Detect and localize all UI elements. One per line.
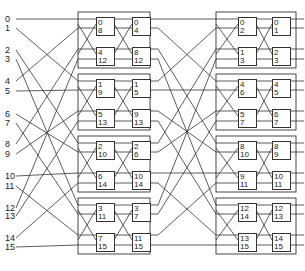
stage2-switch-box: 01	[272, 17, 291, 36]
stage2-switch-box: 1011	[272, 171, 291, 190]
switch-label: 8	[98, 27, 102, 35]
stage1-switch-box: 412	[96, 47, 115, 66]
stage1-switch-box: 311	[96, 203, 115, 222]
wiring-lines	[0, 0, 305, 271]
stage1-switch-box: 19	[96, 79, 115, 98]
switch-label: 14	[240, 213, 249, 221]
input-label: 7	[5, 119, 10, 128]
switch-label: 6	[240, 89, 244, 97]
switch-label: 13	[134, 119, 143, 127]
stage1-switch-box: 26	[132, 141, 151, 160]
switch-label: 3	[274, 57, 278, 65]
switch-label: 10	[98, 151, 107, 159]
switch-label: 13	[274, 213, 283, 221]
input-label: 15	[5, 243, 15, 252]
stage2-switch-box: 57	[238, 109, 257, 128]
switch-label: 15	[240, 243, 249, 251]
switch-label: 2	[240, 27, 244, 35]
switch-label: 9	[98, 89, 102, 97]
stage1-switch-box: 1014	[132, 171, 151, 190]
stage1-switch-box: 913	[132, 109, 151, 128]
stage1-switch-box: 210	[96, 141, 115, 160]
switch-label: 12	[98, 57, 107, 65]
switch-label: 4	[134, 27, 138, 35]
stage1-switch-box: 1115	[132, 233, 151, 252]
stage1-switch-box: 513	[96, 109, 115, 128]
input-label: 13	[5, 212, 15, 221]
input-label: 9	[5, 150, 10, 159]
switch-label: 11	[98, 213, 106, 221]
input-label: 11	[5, 182, 14, 191]
stage2-switch-box: 67	[272, 109, 291, 128]
switch-label: 1	[274, 27, 278, 35]
input-label: 8	[5, 140, 10, 149]
switch-label: 7	[134, 213, 138, 221]
switch-label: 13	[98, 119, 107, 127]
switch-label: 10	[240, 151, 249, 159]
stage1-switch-box: 715	[96, 233, 115, 252]
switch-label: 11	[240, 181, 248, 189]
switch-label: 7	[274, 119, 278, 127]
stage1-switch-box: 15	[132, 79, 151, 98]
switch-label: 14	[134, 181, 143, 189]
stage2-switch-box: 1415	[272, 233, 291, 252]
switch-label: 15	[134, 243, 143, 251]
stage1-switch-box: 08	[96, 17, 115, 36]
switch-label: 15	[98, 243, 107, 251]
switch-label: 5	[134, 89, 138, 97]
stage2-switch-box: 45	[272, 79, 291, 98]
stage2-switch-box: 02	[238, 17, 257, 36]
switch-label: 15	[274, 243, 283, 251]
switch-label: 6	[134, 151, 138, 159]
stage2-switch-box: 911	[238, 171, 257, 190]
stage1-switch-box: 04	[132, 17, 151, 36]
stage2-switch-box: 1214	[238, 203, 257, 222]
stage2-switch-box: 23	[272, 47, 291, 66]
switch-label: 7	[240, 119, 244, 127]
stage2-switch-box: 89	[272, 141, 291, 160]
stage2-switch-box: 13	[238, 47, 257, 66]
input-label: 1	[5, 24, 10, 33]
stage2-switch-box: 1315	[238, 233, 257, 252]
switch-label: 3	[240, 57, 244, 65]
switch-label: 5	[274, 89, 278, 97]
stage1-switch-box: 812	[132, 47, 151, 66]
switch-label: 14	[98, 181, 107, 189]
input-label: 3	[5, 55, 10, 64]
switch-label: 12	[134, 57, 143, 65]
stage1-switch-box: 37	[132, 203, 151, 222]
stage1-switch-box: 614	[96, 171, 115, 190]
stage2-switch-box: 810	[238, 141, 257, 160]
switch-label: 11	[274, 181, 282, 189]
input-label: 4	[5, 77, 10, 86]
input-label: 10	[5, 172, 15, 181]
stage2-switch-box: 1213	[272, 203, 291, 222]
input-label: 5	[5, 87, 10, 96]
switch-label: 9	[274, 151, 278, 159]
stage2-switch-box: 46	[238, 79, 257, 98]
